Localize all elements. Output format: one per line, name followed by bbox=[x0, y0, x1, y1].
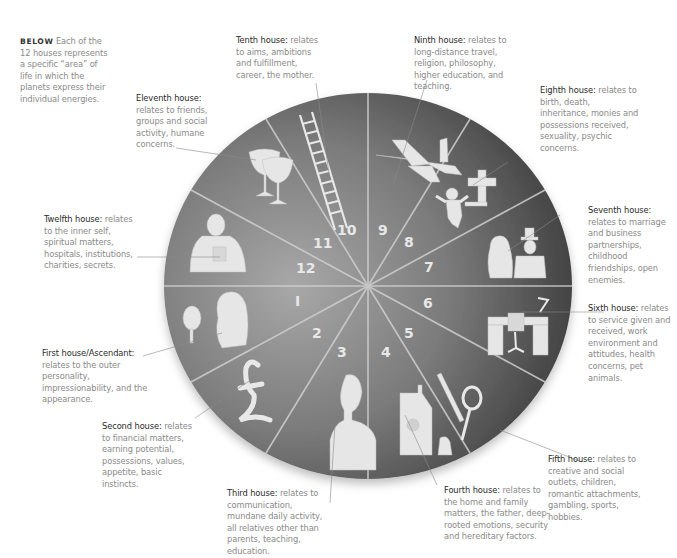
house-title: Eleventh house: bbox=[136, 93, 201, 103]
house-label-11: Eleventh house: relates to friends, grou… bbox=[136, 93, 214, 151]
house-label-10: Tenth house: relates to aims, ambitions … bbox=[236, 35, 324, 81]
house-title: Tenth house: bbox=[236, 35, 288, 45]
house-number-4: 4 bbox=[381, 344, 391, 360]
house-title: Fifth house: bbox=[548, 454, 595, 464]
house-description: relates to friends, groups and social ac… bbox=[136, 105, 207, 150]
house-description: relates to communication, mundane daily … bbox=[227, 488, 322, 556]
house-label-5: Fifth house: relates to creative and soc… bbox=[548, 454, 648, 524]
house-title: Ninth house: bbox=[414, 35, 466, 45]
house-label-3: Third house: relates to communication, m… bbox=[227, 488, 331, 558]
house-label-9: Ninth house: relates to long-distance tr… bbox=[414, 35, 514, 93]
house-label-6: Sixth house: relates to service given an… bbox=[588, 303, 674, 384]
house-label-7: Seventh house: relates to marriage and b… bbox=[588, 205, 672, 286]
house-number-6: 6 bbox=[423, 295, 433, 311]
house-title: First house/Ascendant: bbox=[42, 348, 134, 358]
house-title: Sixth house: bbox=[588, 303, 638, 313]
house-label-8: Eighth house: relates to birth, death, i… bbox=[540, 85, 640, 155]
house-number-12: 12 bbox=[296, 260, 315, 276]
intro-keyword: BELOW bbox=[20, 37, 53, 46]
house-number-7: 7 bbox=[424, 259, 434, 275]
house-description: relates to the outer personality, impres… bbox=[42, 360, 147, 405]
house-description: relates to marriage and business partner… bbox=[588, 217, 666, 285]
house-label-2: Second house: relates to financial matte… bbox=[102, 421, 200, 491]
house-label-1: First house/Ascendant: relates to the ou… bbox=[42, 348, 160, 406]
house-title: Third house: bbox=[227, 488, 277, 498]
house-description: relates to creative and social outlets, … bbox=[548, 454, 641, 522]
house-number-1: I bbox=[295, 293, 300, 309]
house-description: relates to service given and received, w… bbox=[588, 303, 670, 383]
house-title: Twelfth house: bbox=[44, 214, 102, 224]
house-label-12: Twelfth house: relates to the inner self… bbox=[44, 214, 140, 272]
house-number-5: 5 bbox=[404, 325, 414, 341]
house-number-11: 11 bbox=[313, 235, 332, 251]
house-number-3: 3 bbox=[337, 344, 347, 360]
house-title: Seventh house: bbox=[588, 205, 651, 215]
house-number-2: 2 bbox=[312, 325, 322, 341]
house-title: Second house: bbox=[102, 421, 162, 431]
house-description: relates to financial matters, earning po… bbox=[102, 421, 192, 489]
house-number-9: 9 bbox=[378, 222, 388, 238]
house-title: Eighth house: bbox=[540, 85, 596, 95]
house-label-4: Fourth house: relates to the home and fa… bbox=[444, 485, 552, 543]
house-number-8: 8 bbox=[404, 234, 414, 250]
house-description: relates to birth, death, inheritance, mo… bbox=[540, 85, 638, 153]
intro-text: Each of the 12 houses represents a speci… bbox=[20, 36, 107, 104]
house-title: Fourth house: bbox=[444, 485, 500, 495]
intro-caption: BELOW Each of the 12 houses represents a… bbox=[20, 36, 112, 106]
